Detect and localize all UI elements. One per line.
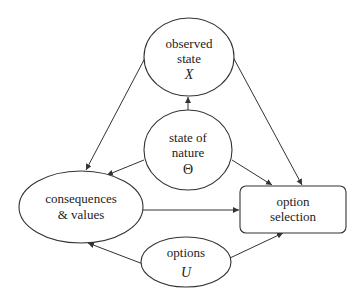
node-state-of-nature: state of nature Θ <box>144 110 232 190</box>
node-consequences-values: consequences & values <box>19 171 143 243</box>
edge-options-to-consequences <box>88 243 143 264</box>
edge-observed-to-consequences <box>86 58 145 170</box>
state-of-nature-symbol: Θ <box>183 162 193 177</box>
state-of-nature-line2: nature <box>172 145 205 160</box>
options-symbol: U <box>181 265 192 280</box>
edge-observed-to-selection <box>233 57 302 185</box>
node-observed-state: observed state X <box>144 18 234 96</box>
options-line1: options <box>167 245 205 260</box>
node-option-selection: option selection <box>240 186 346 233</box>
consequences-line2: & values <box>58 207 105 222</box>
observed-state-line2: state <box>177 51 201 66</box>
edge-options-to-selection <box>230 233 283 258</box>
state-of-nature-line1: state of <box>169 130 208 145</box>
decision-diagram: observed state X state of nature Θ conse… <box>0 0 360 300</box>
option-selection-line2: selection <box>270 209 317 224</box>
node-options: options U <box>141 237 231 287</box>
edge-nature-to-selection <box>232 160 272 185</box>
edge-nature-to-consequences <box>107 160 144 175</box>
consequences-line1: consequences <box>45 191 116 206</box>
observed-state-symbol: X <box>184 67 194 82</box>
observed-state-line1: observed <box>166 36 213 51</box>
option-selection-line1: option <box>276 194 310 209</box>
